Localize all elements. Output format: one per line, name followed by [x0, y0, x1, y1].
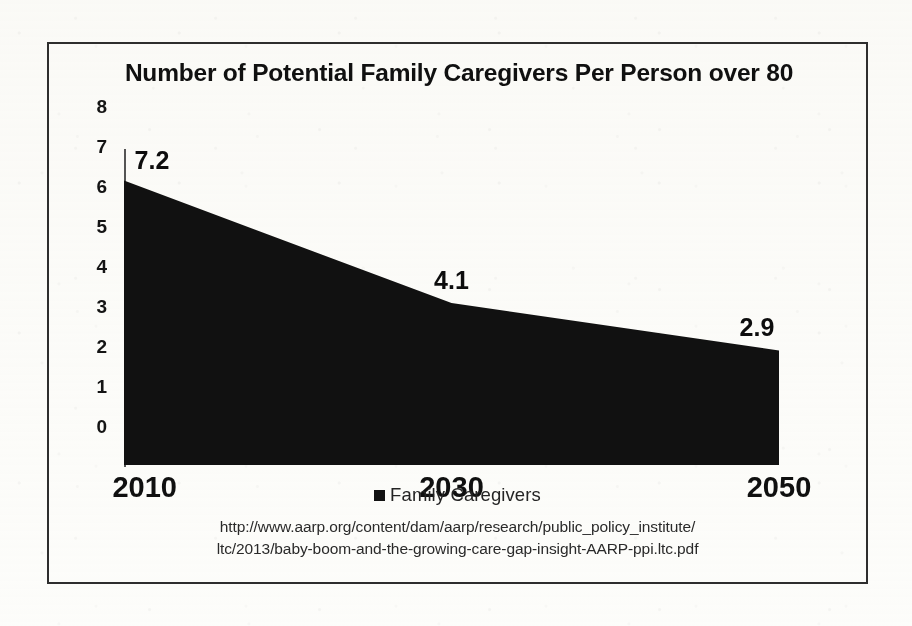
- y-tick-8: 8: [96, 97, 107, 116]
- data-label-2030: 4.1: [434, 268, 469, 293]
- chart-frame: Number of Potential Family Caregivers Pe…: [47, 42, 868, 584]
- y-tick-4: 4: [96, 257, 107, 276]
- plot-area: 7.2 4.1 2.9 2010 2030 2050: [124, 117, 814, 497]
- source-url-line-1: http://www.aarp.org/content/dam/aarp/res…: [49, 516, 866, 538]
- chart-legend: Family Caregivers: [49, 484, 866, 506]
- source-url-line-2: ltc/2013/baby-boom-and-the-growing-care-…: [49, 538, 866, 560]
- chart-title: Number of Potential Family Caregivers Pe…: [109, 57, 809, 89]
- y-tick-1: 1: [96, 377, 107, 396]
- family-caregivers-area-series: [124, 117, 814, 497]
- y-tick-0: 0: [96, 417, 107, 436]
- y-axis-tick-labels: 8 7 6 5 4 3 2 1 0: [71, 106, 107, 426]
- y-tick-7: 7: [96, 137, 107, 156]
- legend-square-icon: [374, 490, 385, 501]
- y-tick-5: 5: [96, 217, 107, 236]
- source-url: http://www.aarp.org/content/dam/aarp/res…: [49, 516, 866, 561]
- data-label-2010: 7.2: [135, 148, 170, 173]
- y-tick-3: 3: [96, 297, 107, 316]
- y-tick-2: 2: [96, 337, 107, 356]
- y-tick-6: 6: [96, 177, 107, 196]
- data-label-2050: 2.9: [740, 315, 775, 340]
- legend-label-family-caregivers: Family Caregivers: [390, 484, 541, 506]
